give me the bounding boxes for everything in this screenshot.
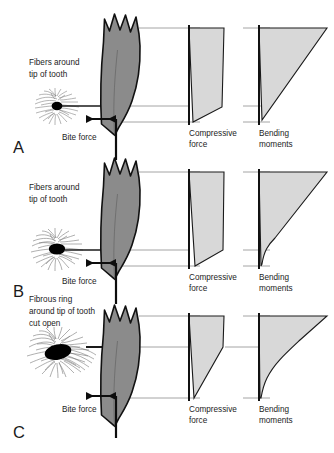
panel-a-bending-label-line-1: Bending: [259, 129, 289, 138]
panel-c-bite-force-label: Bite force: [62, 405, 97, 414]
panel-b-compressive-label-line-1: Compressive: [189, 273, 237, 282]
panel-b-bite-force-label: Bite force: [62, 277, 97, 286]
panel-b-letter: B: [13, 282, 24, 300]
panel-a-fiber-caption-line-1: Fibers around: [29, 58, 80, 67]
figure-root: Fibers around tip of tooth Bite force: [0, 0, 334, 453]
panel-b-bending-label-line-2: moments: [259, 284, 293, 293]
panel-b-fiber-caption-line-1: Fibers around: [29, 183, 80, 192]
panel-a-fiber-caption-line-2: tip of tooth: [29, 70, 68, 79]
panel-a-compressive-label-line-1: Compressive: [189, 129, 237, 138]
panel-c-compressive-label-line-1: Compressive: [189, 405, 237, 414]
panel-b-bending-label-line-1: Bending: [259, 273, 289, 282]
panel-c-fiber-caption-line-2: around tip of tooth: [29, 307, 95, 316]
panel-c-letter: C: [13, 423, 25, 441]
panel-b-compressive-label-line-2: force: [189, 284, 208, 293]
panel-b-fiber-caption-line-2: tip of tooth: [29, 195, 68, 204]
panel-b-compressive-area: [189, 172, 224, 266]
panel-c-bending-label-line-2: moments: [259, 416, 293, 425]
panel-a-compressive-area: [189, 28, 224, 122]
panel-a-bending-label-line-2: moments: [259, 140, 293, 149]
tooth-loading-figure: Fibers around tip of tooth Bite force: [0, 0, 334, 453]
panel-a-letter: A: [13, 138, 24, 156]
panel-c-bending-label-line-1: Bending: [259, 405, 289, 414]
panel-c-compressive-label-line-2: force: [189, 416, 208, 425]
panel-a-compressive-label-line-2: force: [189, 140, 208, 149]
panel-c-fiber-caption-line-1: Fibrous ring: [29, 295, 73, 304]
panel-c-fiber-caption-line-3: cut open: [29, 319, 61, 328]
panel-a-bite-force-label: Bite force: [62, 133, 97, 142]
